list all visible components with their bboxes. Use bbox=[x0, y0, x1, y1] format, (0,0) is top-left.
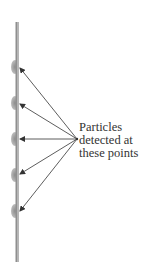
arrow-origin-dot bbox=[76, 138, 78, 140]
arrow-5 bbox=[20, 139, 77, 211]
arrow-4 bbox=[20, 139, 77, 174]
arrow-2 bbox=[20, 104, 77, 139]
detection-screen bbox=[16, 22, 20, 262]
particles-label: Particles detected at these points bbox=[79, 121, 149, 160]
label-line-3: these points bbox=[79, 147, 149, 160]
arrows bbox=[20, 68, 77, 211]
arrow-1 bbox=[20, 68, 77, 139]
